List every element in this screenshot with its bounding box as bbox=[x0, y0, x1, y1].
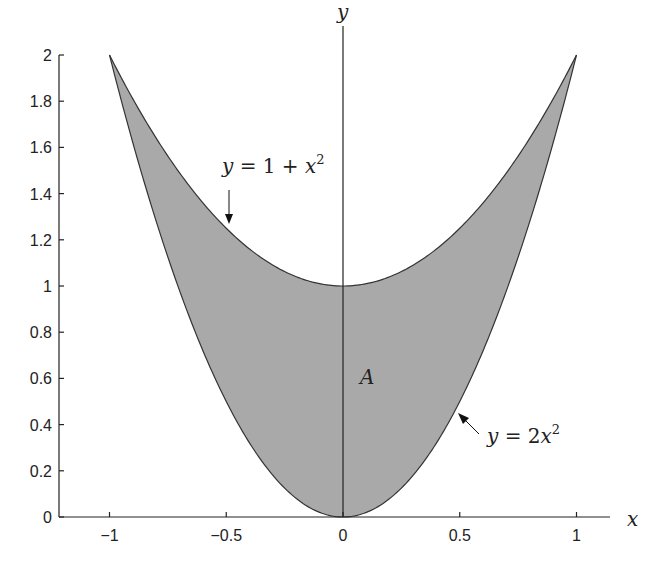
y-axis-label: y bbox=[336, 0, 349, 24]
y-tick-label: 0.2 bbox=[30, 463, 52, 480]
x-tick-label: 0.5 bbox=[449, 527, 471, 544]
y-tick-label: 0.8 bbox=[30, 324, 52, 341]
x-tick-label: −0.5 bbox=[210, 527, 242, 544]
lower-eq-exp: 2 bbox=[552, 422, 560, 437]
y-tick-label: 0 bbox=[43, 509, 52, 526]
y-tick-label: 1.6 bbox=[30, 139, 52, 156]
y-tick-label: 2 bbox=[43, 47, 52, 64]
annotation-upper-curve: y = 1 + x2 bbox=[221, 152, 325, 224]
lower-eq-y: y bbox=[486, 424, 499, 448]
upper-eq-exp: 2 bbox=[316, 152, 324, 167]
svg-text:y = 2x2: y = 2x2 bbox=[486, 422, 560, 448]
upper-eq-x: x bbox=[305, 154, 316, 178]
chart-canvas: y x 00.20.40.60.811.21.41.61.82 −1−0.500… bbox=[0, 0, 665, 570]
x-tick-label: −1 bbox=[100, 527, 118, 544]
upper-eq-y: y bbox=[221, 154, 234, 178]
y-tick-label: 1.4 bbox=[30, 186, 52, 203]
annotation-lower-curve: y = 2x2 bbox=[458, 413, 560, 448]
region-label-a: A bbox=[358, 365, 374, 389]
x-tick-label: 1 bbox=[572, 527, 581, 544]
y-tick-label: 0.4 bbox=[30, 417, 52, 434]
y-tick-label: 1 bbox=[43, 278, 52, 295]
y-tick-label: 0.6 bbox=[30, 370, 52, 387]
x-axis-label: x bbox=[627, 507, 638, 531]
svg-text:y = 1 + x2: y = 1 + x2 bbox=[221, 152, 325, 178]
upper-eq-mid: = 1 + bbox=[233, 154, 305, 178]
arrowhead-down-icon bbox=[225, 214, 233, 224]
lower-eq-mid: = 2 bbox=[498, 424, 540, 448]
y-tick-label: 1.8 bbox=[30, 93, 52, 110]
y-tick-label: 1.2 bbox=[30, 232, 52, 249]
lower-eq-x: x bbox=[541, 424, 552, 448]
x-tick-label: 0 bbox=[339, 527, 348, 544]
